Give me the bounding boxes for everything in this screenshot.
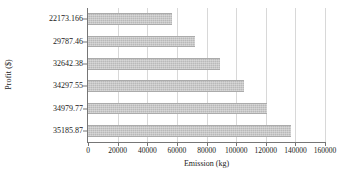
y-tick-label: 35185.87: [53, 127, 83, 135]
x-tick-label: 0: [86, 147, 90, 155]
bar: [88, 13, 172, 25]
y-axis-title-text: Profit ($): [4, 59, 13, 90]
x-gridline: [177, 8, 178, 142]
y-tick-mark: [83, 19, 87, 20]
x-gridline: [147, 8, 148, 142]
y-tick-mark: [83, 108, 87, 109]
y-axis-tick-labels: 22173.16629787.4632642.3834297.5534979.7…: [14, 8, 86, 142]
x-gridline: [118, 8, 119, 142]
y-tick-mark: [83, 130, 87, 131]
bar-chart-figure: Profit ($) 22173.16629787.4632642.383429…: [0, 0, 351, 177]
x-tick-label: 160000: [314, 147, 337, 155]
y-tick-label: 34979.77: [53, 105, 83, 113]
x-tick-label: 100000: [225, 147, 248, 155]
bar: [88, 80, 244, 92]
plot-inner: [88, 8, 325, 142]
x-gridline: [207, 8, 208, 142]
y-tick-label: 34297.55: [53, 82, 83, 90]
x-tick-label: 40000: [138, 147, 157, 155]
y-tick-label: 22173.166: [49, 15, 83, 23]
y-tick-label: 32642.38: [53, 60, 83, 68]
y-axis-line: [87, 8, 88, 142]
y-tick-label: 29787.46: [53, 38, 83, 46]
y-tick-mark: [83, 86, 87, 87]
x-gridline: [266, 8, 267, 142]
x-axis-title: Emission (kg): [88, 160, 325, 168]
y-tick-mark: [83, 41, 87, 42]
x-tick-label: 80000: [197, 147, 216, 155]
bar: [88, 58, 220, 70]
bar: [88, 103, 267, 115]
x-tick-label: 20000: [108, 147, 127, 155]
x-tick-label: 140000: [284, 147, 307, 155]
plot-area: [88, 8, 325, 142]
bar: [88, 36, 195, 48]
x-tick-label: 120000: [255, 147, 278, 155]
bar: [88, 125, 291, 137]
x-gridline: [325, 8, 326, 142]
x-tick-label: 60000: [168, 147, 187, 155]
x-gridline: [236, 8, 237, 142]
x-gridline: [295, 8, 296, 142]
y-tick-mark: [83, 63, 87, 64]
